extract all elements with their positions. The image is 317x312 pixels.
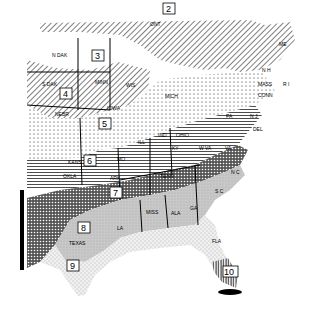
state-label: GA [190, 205, 198, 211]
zone-label-5: 5 [102, 119, 107, 129]
state-label: ILL [138, 139, 145, 145]
state-label: TEXAS [69, 240, 86, 246]
state-label: PA [226, 113, 233, 119]
florida-keys [218, 289, 242, 295]
state-label: MASS [258, 81, 273, 87]
state-label: KANS [68, 159, 82, 165]
state-label: NEBR [55, 111, 69, 117]
zone-map: 2 3 4 5 6 7 8 9 10 N DAK S DAK NEBR KANS… [0, 0, 317, 312]
state-label: N J [250, 113, 258, 119]
state-label: MISS [146, 209, 159, 215]
state-label: TENN [160, 173, 174, 179]
state-label: S C [215, 188, 224, 194]
state-label: ARK [110, 175, 121, 181]
state-label: MINN [95, 79, 108, 85]
state-label: R I [283, 81, 289, 87]
state-label: KY [172, 145, 179, 151]
state-label: OKLA [63, 173, 77, 179]
state-label: LA [117, 225, 124, 231]
zone-label-4: 4 [63, 89, 68, 99]
zone-label-9: 9 [70, 261, 75, 271]
zone-label-6: 6 [87, 156, 92, 166]
state-label: IOWA [107, 105, 121, 111]
state-label: OHIO [176, 132, 189, 138]
zone-label-8: 8 [81, 223, 86, 233]
state-label: N H [262, 67, 271, 73]
state-label: VA [225, 145, 232, 151]
state-label: WIS [126, 82, 136, 88]
state-label: ALA [171, 210, 181, 216]
state-label: MICH [165, 93, 178, 99]
state-label: MO [117, 156, 125, 162]
state-label: N C [231, 169, 240, 175]
zone-label-3: 3 [95, 51, 100, 61]
zone-label-7: 7 [113, 188, 118, 198]
state-label: CONN [258, 92, 273, 98]
state-label: N DAK [52, 52, 68, 58]
state-label: IND [158, 132, 167, 138]
state-label: DEL [253, 126, 263, 132]
map-left-edge [20, 190, 24, 270]
state-label: ONT [150, 21, 161, 27]
zone-label-10: 10 [224, 267, 234, 277]
state-label: W VA [199, 145, 212, 151]
state-label: FLA [212, 238, 222, 244]
state-label: S DAK [42, 81, 58, 87]
zone-label-2: 2 [166, 4, 171, 14]
state-label: ME [279, 41, 287, 47]
